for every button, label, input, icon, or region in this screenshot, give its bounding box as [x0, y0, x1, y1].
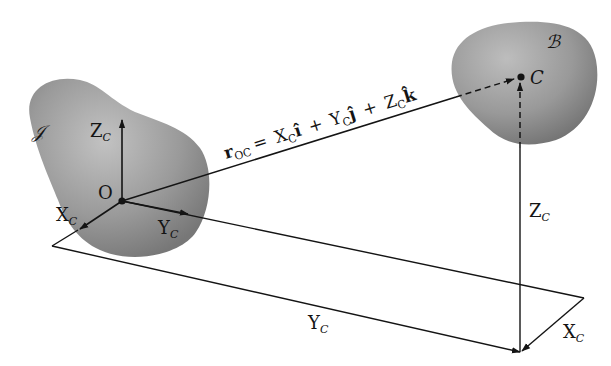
diagram-canvas: 𝒥 ℬ O C ZC XC YC rOC= XCî + YCĵ + ZCk̂ Y…	[0, 0, 611, 366]
inertial-body-blob	[29, 79, 209, 257]
center-point	[517, 73, 524, 80]
zc-component-label: ZC	[529, 200, 551, 224]
moving-body-label: ℬ	[546, 31, 562, 52]
vector-equation: rOC= XCî + YCĵ + ZCk̂	[221, 84, 420, 166]
moving-body-blob	[452, 22, 598, 145]
center-label: C	[530, 67, 544, 88]
yc-base-line	[52, 246, 520, 352]
origin-point	[118, 197, 125, 204]
y-parallel-line	[122, 201, 584, 298]
yc-component-label: YC	[307, 312, 329, 336]
x-connector-left	[52, 230, 78, 246]
xc-component-label: XC	[563, 321, 585, 345]
origin-label: O	[98, 182, 113, 203]
equation-text: rOC= XCî + YCĵ + ZCk̂	[221, 84, 420, 166]
